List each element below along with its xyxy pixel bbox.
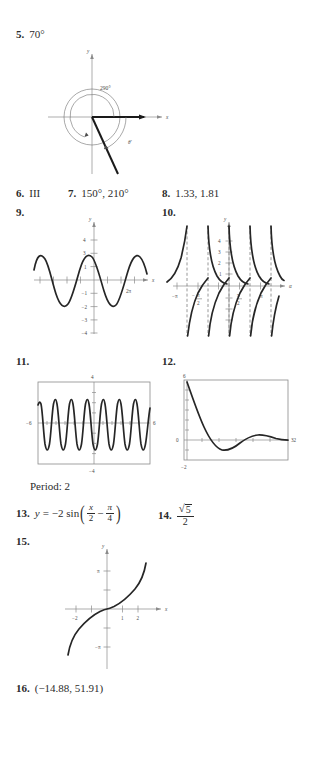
item13-fraction-pi-over-4: π 4 xyxy=(106,503,115,523)
figure-15-inverse-graph: x y −2 1 2 π −π xyxy=(55,543,205,673)
y-axis-arrow xyxy=(92,222,96,227)
answer-item-6: 6.III xyxy=(16,187,40,199)
fig15-ytick-neg-pi: −π xyxy=(95,644,101,650)
item14-denominator: 2 xyxy=(181,517,190,528)
item14-fraction: √5 2 xyxy=(177,503,194,528)
x-axis-arrow xyxy=(157,115,162,119)
answer-item-14: 14. √5 2 xyxy=(158,503,195,528)
figure-9-sine-graph: x y 4 3 1 −1 −2 −3 −4 xyxy=(20,216,165,338)
fig10-xtick-neg-pi: −π xyxy=(172,293,178,299)
fig10-branches xyxy=(167,226,284,336)
fig5-angle-290-label: 290° xyxy=(100,85,111,91)
answer-number-14: 14. xyxy=(158,509,172,521)
fig12-window-frame xyxy=(184,380,288,460)
answer-text-7: 150°, 210° xyxy=(81,187,128,199)
fig12-axis-ticks xyxy=(185,390,270,450)
item13-right-paren: ) xyxy=(116,505,121,522)
fig9-y-label: y xyxy=(88,216,92,222)
y-axis-arrow xyxy=(105,549,109,554)
item13-fraction-x-over-2: x 2 xyxy=(87,503,96,523)
answer-key-page: 5.70° x y 290° θ′ xyxy=(0,0,313,780)
fig5-reference-angle-label: θ′ xyxy=(128,139,133,145)
answer-item-11: 11. xyxy=(16,355,29,367)
initial-side-arrow xyxy=(139,115,146,120)
fig9-ytick-neg1: −1 xyxy=(82,290,88,296)
fig9-ytick-1: 1 xyxy=(84,264,87,270)
fig11-ymax-label: 4 xyxy=(91,374,94,380)
answer-item-7: 7.150°, 210° xyxy=(68,187,129,199)
fig9-ytick-neg2: −2 xyxy=(82,304,88,310)
fig10-x-tick-labels: −π − π 2 π 2 π xyxy=(172,292,263,306)
fig15-xtick-neg2: −2 xyxy=(72,615,78,621)
fig9-y-ticks: 4 3 1 −1 −2 −3 −4 xyxy=(82,237,98,336)
fig15-y-label: y xyxy=(101,543,105,549)
fig5-x-label: x xyxy=(165,114,169,120)
item13-lhs: y xyxy=(35,507,40,519)
angle-sweep-arrow xyxy=(85,133,89,137)
item13-equals: = xyxy=(43,507,49,519)
item14-radicand: 5 xyxy=(185,504,192,516)
fig9-sine-curve xyxy=(34,255,147,306)
fig9-ytick-3: 3 xyxy=(83,250,86,256)
answer-number-12: 12. xyxy=(162,355,176,367)
x-axis-arrow xyxy=(280,284,285,288)
item14-numerator: √5 xyxy=(177,503,194,517)
fig10-ytick-1: 1 xyxy=(219,271,222,277)
y-axis-arrow xyxy=(90,54,94,59)
item13-frac2-den: 4 xyxy=(106,514,115,524)
fig12-right-label: 32 xyxy=(291,437,297,443)
fig5-y-label: y xyxy=(86,48,90,54)
fig12-left-label: 0 xyxy=(176,437,179,443)
x-axis-arrow xyxy=(143,278,148,282)
fig9-ytick-neg3: −3 xyxy=(82,317,88,323)
terminal-side-ray xyxy=(92,117,118,174)
answer-item-15: 15. xyxy=(16,535,30,547)
fig9-ytick-neg4: −4 xyxy=(82,330,88,336)
answer-number-5: 5. xyxy=(16,28,24,40)
answer-number-13: 13. xyxy=(16,507,30,519)
answer-number-15: 15. xyxy=(16,535,30,547)
answer-number-16: 16. xyxy=(16,682,30,694)
x-axis-arrow xyxy=(156,607,161,611)
answer-text-8: 1.33, 1.81 xyxy=(175,187,219,199)
fig10-y-label: y xyxy=(223,216,227,222)
answer-text-6: III xyxy=(29,187,40,199)
figure-11-calculator-window: 4 −4 −6 6 xyxy=(20,370,162,475)
answer-text-16: (−14.88, 51.91) xyxy=(35,682,104,694)
svg-text:−: − xyxy=(192,292,195,298)
fig10-xtick-neg-pi2-den: 2 xyxy=(197,300,200,306)
answer-item-13: 13. y = −2 sin ( x 2 − π 4 ) xyxy=(16,503,122,523)
period-note: Period: 2 xyxy=(30,480,70,492)
fig11-ymin-label: −4 xyxy=(89,468,95,474)
answer-item-12: 12. xyxy=(162,355,176,367)
answer-number-6: 6. xyxy=(16,187,24,199)
answer-item-8: 8.1.33, 1.81 xyxy=(162,187,219,199)
fig11-xmin-label: −6 xyxy=(26,420,32,426)
item13-coefficient: −2 sin xyxy=(52,507,79,519)
figure-10-cotangent-graph: α y 4 3 2 1 xyxy=(165,216,310,338)
fig15-ytick-pi: π xyxy=(97,568,100,574)
fig15-x-label: x xyxy=(164,606,168,612)
answer-number-7: 7. xyxy=(68,187,76,199)
fig15-xtick-1: 1 xyxy=(121,615,124,621)
fig9-x-label: x xyxy=(151,277,155,283)
radical-icon: √5 xyxy=(179,503,192,516)
fig10-ytick-3: 3 xyxy=(218,249,221,255)
answer-item-16: 16.(−14.88, 51.91) xyxy=(16,682,103,694)
item13-frac1-den: 2 xyxy=(87,514,96,524)
fig9-xtick-2pi: 2π xyxy=(126,288,132,294)
fig15-xtick-2: 2 xyxy=(137,615,140,621)
figure-5-angle-diagram: x y 290° θ′ xyxy=(40,44,210,179)
item13-minus: − xyxy=(97,507,103,519)
answer-item-5: 5.70° xyxy=(16,28,45,40)
fig9-ytick-4: 4 xyxy=(83,237,86,243)
fig10-x-label: α xyxy=(289,283,292,289)
answer-text-5: 70° xyxy=(29,28,44,40)
answer-number-8: 8. xyxy=(162,187,170,199)
fig12-bottom-label: −2 xyxy=(181,464,187,470)
fig10-ytick-2: 2 xyxy=(218,260,221,266)
fig10-ytick-4: 4 xyxy=(218,238,221,244)
answer-number-11: 11. xyxy=(16,355,29,367)
item13-left-paren: ( xyxy=(80,505,85,522)
fig11-xmax-label: 6 xyxy=(153,420,156,426)
